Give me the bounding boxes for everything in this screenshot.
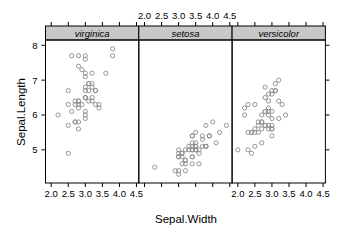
x-tick-label: 4.0 bbox=[299, 188, 312, 199]
data-point bbox=[111, 47, 115, 51]
data-point bbox=[270, 116, 274, 120]
data-point bbox=[217, 130, 221, 134]
data-point bbox=[214, 141, 218, 145]
data-point bbox=[70, 54, 74, 58]
data-point bbox=[183, 169, 187, 173]
x-tick-label: 2.0 bbox=[45, 188, 58, 199]
data-point bbox=[153, 165, 157, 169]
data-point bbox=[190, 134, 194, 138]
data-point bbox=[253, 144, 257, 148]
data-point bbox=[246, 102, 250, 106]
x-tick-label: 4.0 bbox=[113, 188, 126, 199]
data-point bbox=[277, 99, 281, 103]
scatter-chart: virginica2.02.53.03.54.04.5setosa2.02.53… bbox=[0, 0, 341, 234]
data-point bbox=[273, 82, 277, 86]
data-point bbox=[260, 141, 264, 145]
data-point bbox=[277, 78, 281, 82]
x-tick-label: 2.0 bbox=[231, 188, 244, 199]
data-point bbox=[266, 99, 270, 103]
data-point bbox=[56, 113, 60, 117]
data-point bbox=[76, 127, 80, 131]
y-tick-label: 5 bbox=[32, 144, 37, 155]
data-point bbox=[111, 54, 115, 58]
data-point bbox=[224, 123, 228, 127]
data-point bbox=[76, 64, 80, 68]
data-point bbox=[70, 109, 74, 113]
data-point bbox=[277, 116, 281, 120]
x-tick-label: 3.0 bbox=[172, 10, 185, 21]
x-tick-label: 3.0 bbox=[79, 188, 92, 199]
x-tick-label: 4.5 bbox=[130, 188, 143, 199]
x-tick-label: 2.5 bbox=[62, 188, 75, 199]
data-point bbox=[66, 102, 70, 106]
panel-virginica: virginica2.02.53.03.54.04.5 bbox=[45, 22, 143, 199]
x-tick-label: 3.5 bbox=[96, 188, 109, 199]
panel-border bbox=[46, 40, 139, 183]
y-tick-label: 8 bbox=[32, 40, 37, 51]
strip-label: versicolor bbox=[258, 28, 299, 39]
data-point bbox=[263, 95, 267, 99]
data-point bbox=[243, 113, 247, 117]
x-axis-title: Sepal.Width bbox=[155, 213, 217, 225]
strip-label: virginica bbox=[75, 28, 110, 39]
data-point bbox=[190, 155, 194, 159]
data-point bbox=[104, 71, 108, 75]
data-point bbox=[76, 54, 80, 58]
y-tick-label: 7 bbox=[32, 75, 37, 86]
data-point bbox=[249, 151, 253, 155]
y-tick-label: 6 bbox=[32, 109, 37, 120]
x-tick-label: 4.5 bbox=[223, 10, 236, 21]
data-point bbox=[236, 148, 240, 152]
data-point bbox=[66, 123, 70, 127]
data-point bbox=[280, 102, 284, 106]
x-tick-label: 2.5 bbox=[248, 188, 261, 199]
x-tick-label: 4.5 bbox=[316, 188, 329, 199]
data-point bbox=[283, 113, 287, 117]
data-point bbox=[66, 88, 70, 92]
data-point bbox=[194, 130, 198, 134]
data-point bbox=[93, 88, 97, 92]
data-point bbox=[263, 85, 267, 89]
x-tick-label: 3.5 bbox=[282, 188, 295, 199]
x-tick-label: 2.5 bbox=[155, 10, 168, 21]
panels-layer: virginica2.02.53.03.54.04.5setosa2.02.53… bbox=[32, 10, 329, 199]
x-tick-label: 3.5 bbox=[189, 10, 202, 21]
data-point bbox=[253, 102, 257, 106]
data-point bbox=[260, 127, 264, 131]
data-point bbox=[90, 71, 94, 75]
data-point bbox=[204, 123, 208, 127]
y-axis-title: Sepal.Length bbox=[15, 78, 27, 146]
data-point bbox=[211, 120, 215, 124]
x-tick-label: 4.0 bbox=[206, 10, 219, 21]
data-point bbox=[260, 113, 264, 117]
data-point bbox=[207, 134, 211, 138]
x-tick-label: 3.0 bbox=[265, 188, 278, 199]
data-point bbox=[83, 95, 87, 99]
data-point bbox=[197, 162, 201, 166]
data-point bbox=[66, 151, 70, 155]
panel-border bbox=[232, 40, 325, 183]
data-point bbox=[243, 106, 247, 110]
data-point bbox=[80, 68, 84, 72]
data-point bbox=[190, 162, 194, 166]
strip-label: setosa bbox=[171, 28, 199, 39]
data-point bbox=[270, 134, 274, 138]
data-point bbox=[246, 148, 250, 152]
panel-setosa: setosa2.02.53.03.54.04.5 bbox=[138, 10, 236, 187]
x-tick-label: 2.0 bbox=[138, 10, 151, 21]
panel-versicolor: versicolor2.02.53.03.54.04.5 bbox=[231, 22, 329, 199]
